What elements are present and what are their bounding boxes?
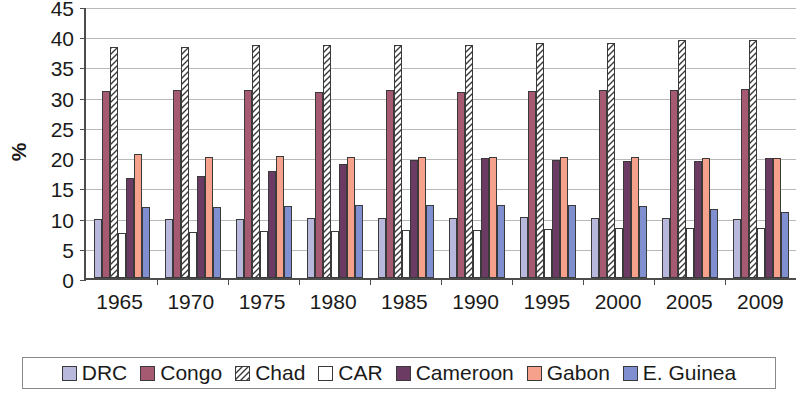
bar (544, 229, 552, 278)
legend-label: E. Guinea (643, 361, 736, 385)
legend-item[interactable]: Congo (140, 361, 222, 385)
bar (639, 206, 647, 278)
bar-group (654, 9, 725, 278)
x-tick-mark (512, 278, 513, 285)
bar (552, 160, 560, 278)
bar (749, 40, 757, 278)
bar (260, 231, 268, 278)
legend-item[interactable]: DRC (62, 361, 128, 385)
bar (418, 157, 426, 278)
bar-group (228, 9, 299, 278)
legend-swatch-icon (623, 366, 638, 381)
y-tick-label: 45 (51, 0, 74, 19)
legend-label: Gabon (547, 361, 610, 385)
x-axis-labels: 1965197019751980198519901995200020052009 (84, 290, 796, 314)
bar-chart: % 051015202530354045 1965197019751980198… (0, 0, 799, 395)
bar (591, 218, 599, 278)
legend-label: Chad (255, 361, 305, 385)
bar (568, 205, 576, 278)
bar (189, 232, 197, 278)
x-tick-label: 2005 (654, 290, 725, 314)
y-tick-label: 0 (62, 270, 74, 291)
bar (110, 47, 118, 278)
bar (118, 233, 126, 278)
bar (765, 158, 773, 278)
bar (181, 47, 189, 278)
legend-item[interactable]: Gabon (527, 361, 610, 385)
x-tick-label: 1970 (155, 290, 226, 314)
legend-swatch-icon (235, 366, 250, 381)
bar (205, 157, 213, 278)
bar (615, 228, 623, 278)
bar-group (725, 9, 796, 278)
legend-swatch-icon (62, 366, 77, 381)
x-tick-label: 1990 (440, 290, 511, 314)
bar-group (512, 9, 583, 278)
bar (457, 92, 465, 278)
legend-label: Congo (160, 361, 222, 385)
bar (142, 207, 150, 278)
y-axis-label: % (7, 135, 31, 169)
bar (276, 156, 284, 278)
bar (347, 157, 355, 278)
bar (197, 176, 205, 278)
legend-item[interactable]: CAR (318, 361, 382, 385)
bar (339, 164, 347, 278)
y-tick-label: 30 (51, 88, 74, 109)
x-tick-label: 1980 (298, 290, 369, 314)
bar-groups (86, 9, 796, 278)
bar (631, 157, 639, 278)
bar (323, 45, 331, 278)
legend-swatch-icon (527, 366, 542, 381)
x-tick-mark (441, 278, 442, 285)
x-tick-label: 1995 (511, 290, 582, 314)
x-tick-label: 2000 (582, 290, 653, 314)
bar (560, 157, 568, 278)
y-tick-label: 15 (51, 179, 74, 200)
bar (528, 91, 536, 278)
bar-group (157, 9, 228, 278)
y-tick-mark (80, 280, 86, 281)
bar-group (583, 9, 654, 278)
chart-legend: DRCCongoChadCARCameroonGabonE. Guinea (22, 357, 776, 389)
x-tick-label: 1985 (369, 290, 440, 314)
bar (134, 154, 142, 279)
bar-group (86, 9, 157, 278)
plot-area (84, 8, 796, 280)
x-tick-mark (228, 278, 229, 285)
y-tick-label: 25 (51, 118, 74, 139)
legend-swatch-icon (396, 366, 411, 381)
bar (355, 205, 363, 278)
bar (536, 43, 544, 278)
y-tick-label: 10 (51, 209, 74, 230)
x-tick-label: 2009 (725, 290, 796, 314)
bar (236, 219, 244, 278)
bar (244, 90, 252, 278)
y-tick-label: 40 (51, 28, 74, 49)
bar (678, 40, 686, 278)
bar (733, 219, 741, 278)
bar (662, 218, 670, 278)
bar (607, 43, 615, 278)
bar (284, 206, 292, 278)
legend-item[interactable]: E. Guinea (623, 361, 736, 385)
legend-item[interactable]: Cameroon (396, 361, 514, 385)
bar-group (370, 9, 441, 278)
bar (426, 205, 434, 278)
bar (268, 171, 276, 278)
bar (165, 219, 173, 278)
bar (378, 218, 386, 278)
bar (686, 228, 694, 278)
bar (402, 230, 410, 278)
bar (252, 45, 260, 278)
bar (473, 230, 481, 278)
legend-label: Cameroon (416, 361, 514, 385)
bar (102, 91, 110, 278)
x-tick-mark (370, 278, 371, 285)
y-tick-label: 5 (62, 239, 74, 260)
bar (623, 161, 631, 278)
bar (520, 217, 528, 278)
bar-group (441, 9, 512, 278)
bar (331, 231, 339, 278)
legend-item[interactable]: Chad (235, 361, 305, 385)
